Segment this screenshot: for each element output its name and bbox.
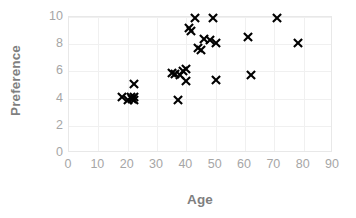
x-tick-label: 70 — [266, 157, 280, 171]
x-tick-label: 30 — [149, 157, 163, 171]
scatter-point-x-icon — [190, 13, 201, 24]
scatter-point-x-icon — [128, 78, 139, 89]
scatter-point-x-icon — [172, 94, 183, 105]
scatter-point-x-icon — [210, 37, 221, 48]
scatter-point-x-icon — [242, 32, 253, 43]
scatter-point-x-icon — [181, 63, 192, 74]
scatter-point-x-icon — [272, 13, 283, 24]
scatter-point-x-icon — [185, 25, 196, 36]
x-tick-label: 50 — [208, 157, 222, 171]
scatter-point-x-icon — [207, 13, 218, 24]
x-tick-label: 80 — [296, 157, 310, 171]
scatter-point-x-icon — [196, 44, 207, 55]
x-tick-label: 0 — [65, 157, 72, 171]
scatter-point-x-icon — [245, 70, 256, 81]
x-tick-label: 40 — [178, 157, 192, 171]
scatter-point-x-icon — [181, 75, 192, 86]
x-axis-title: Age — [68, 192, 332, 207]
scatter-point-x-icon — [128, 94, 139, 105]
scatter-point-x-icon — [210, 74, 221, 85]
x-tick-label: 10 — [90, 157, 104, 171]
x-tick-label: 20 — [120, 157, 134, 171]
x-tick-label: 60 — [237, 157, 251, 171]
plot-area — [68, 16, 332, 152]
data-markers — [69, 17, 331, 151]
x-tick-label: 90 — [325, 157, 339, 171]
scatter-chart: Preference 0246810 0102030405060708090 A… — [0, 0, 356, 218]
scatter-point-x-icon — [292, 37, 303, 48]
